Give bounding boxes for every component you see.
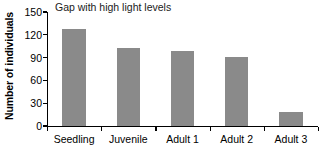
y-axis-tick-labels: 0306090120150 <box>17 0 44 132</box>
x-tick-mark <box>155 127 156 131</box>
bar-seedling <box>62 29 85 126</box>
y-tick-mark <box>43 103 47 104</box>
y-tick-mark <box>43 57 47 58</box>
y-tick-label: 0 <box>36 120 42 132</box>
x-label-adult-3: Adult 3 <box>275 133 308 145</box>
bar-chart-figure: Number of individuals 0306090120150 Gap … <box>0 0 325 158</box>
bar-adult-3 <box>279 112 302 126</box>
x-label-adult-1: Adult 1 <box>166 133 199 145</box>
x-label-seedling: Seedling <box>54 133 95 145</box>
bar-adult-2 <box>225 57 248 126</box>
y-tick-label: 60 <box>30 74 42 86</box>
y-tick-mark <box>43 34 47 35</box>
x-label-adult-2: Adult 2 <box>220 133 253 145</box>
x-tick-mark <box>318 127 319 131</box>
x-tick-mark <box>101 127 102 131</box>
x-axis-line <box>47 126 318 127</box>
y-tick-label: 120 <box>24 29 42 41</box>
y-axis-title-text: Number of individuals <box>3 12 15 120</box>
x-label-juvenile: Juvenile <box>109 133 148 145</box>
y-axis-line <box>47 12 48 126</box>
x-tick-mark <box>210 127 211 131</box>
x-axis-category-labels: SeedlingJuvenileAdult 1Adult 2Adult 3 <box>47 133 318 153</box>
plot-title: Gap with high light levels <box>55 1 171 13</box>
bar-juvenile <box>117 48 140 126</box>
y-tick-mark <box>43 11 47 12</box>
bar-adult-1 <box>171 51 194 126</box>
y-axis-title: Number of individuals <box>0 0 18 132</box>
y-tick-label: 150 <box>24 6 42 18</box>
y-tick-mark <box>43 80 47 81</box>
x-tick-mark <box>264 127 265 131</box>
x-tick-mark <box>47 127 48 131</box>
plot-area: Gap with high light levels <box>47 12 318 126</box>
y-tick-label: 30 <box>30 97 42 109</box>
y-tick-label: 90 <box>30 52 42 64</box>
